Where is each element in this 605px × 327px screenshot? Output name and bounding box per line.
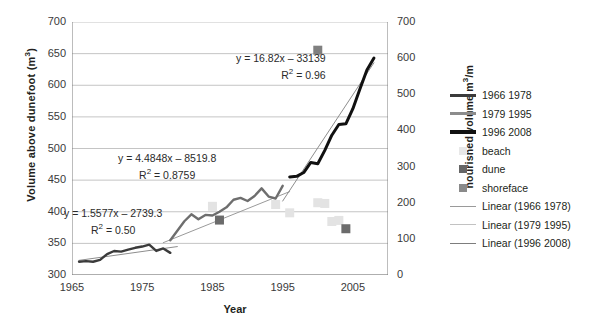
annotation-equation: y = 1.5577x – 2739.3 xyxy=(64,207,162,220)
y-axis-right-tick-label: 200 xyxy=(397,196,431,208)
marker-beach xyxy=(320,199,329,208)
annotation-equation: y = 4.4848x – 8519.8 xyxy=(118,152,216,165)
x-axis-tick-label: 1975 xyxy=(120,281,164,293)
y-axis-left-tick-label: 550 xyxy=(32,110,66,122)
plot-area xyxy=(72,22,388,275)
marker-beach xyxy=(208,202,217,211)
y-axis-left-tick-label: 600 xyxy=(32,78,66,90)
x-axis-tick-label: 1965 xyxy=(50,281,94,293)
y-axis-right-tick-label: 600 xyxy=(397,51,431,63)
legend-line-swatch xyxy=(450,243,476,244)
chart-figure: Volume above dunefoot (m3) nourished vol… xyxy=(0,0,605,327)
trendline-linear-1979-1995- xyxy=(163,192,289,243)
legend-item[interactable]: beach xyxy=(448,142,598,161)
legend-item[interactable]: shoreface xyxy=(448,179,598,198)
legend-key-square xyxy=(448,184,478,192)
legend-item-label: beach xyxy=(478,145,511,157)
legend-item-label: 1966 1978 xyxy=(478,89,532,101)
annotation-r2: R2 = 0.96 xyxy=(236,65,326,82)
y-axis-left-tick-label: 400 xyxy=(32,205,66,217)
legend-square-swatch xyxy=(459,147,467,155)
legend-item-label: Linear (1979 1995) xyxy=(478,219,571,231)
marker-beach xyxy=(271,200,280,209)
legend-key-line xyxy=(448,112,478,115)
y-axis-right-title-tail: /m xyxy=(463,65,475,78)
legend-key-line xyxy=(448,243,478,244)
legend-item[interactable]: 1996 2008 xyxy=(448,123,598,142)
legend-item[interactable]: Linear (1966 1978) xyxy=(448,197,598,216)
legend-key-line xyxy=(448,206,478,207)
legend-item[interactable]: dune xyxy=(448,160,598,179)
legend-item-label: dune xyxy=(478,163,505,175)
legend-item-label: shoreface xyxy=(478,182,528,194)
annotation-r2: R2 = 0.50 xyxy=(64,220,162,237)
legend-item[interactable]: 1979 1995 xyxy=(448,105,598,124)
marker-dune xyxy=(215,216,224,225)
legend-item[interactable]: 1966 1978 xyxy=(448,86,598,105)
annotation-eq-1996-2008: y = 16.82x – 33139 R2 = 0.96 xyxy=(236,52,326,82)
legend-item[interactable]: Linear (1996 2008) xyxy=(448,234,598,253)
series-1966-1978 xyxy=(79,245,170,262)
y-axis-right-tick-label: 0 xyxy=(397,268,431,280)
series-1979-1995 xyxy=(170,186,282,240)
y-axis-right-tick-label: 500 xyxy=(397,87,431,99)
legend-key-square xyxy=(448,165,478,173)
y-axis-left-title: Volume above dunefoot (m3) xyxy=(23,35,37,215)
x-axis-title: Year xyxy=(55,303,415,315)
legend-line-swatch xyxy=(450,112,476,115)
chart-legend: 1966 19781979 19951996 2008beachduneshor… xyxy=(448,86,598,253)
legend-square-swatch xyxy=(459,184,467,192)
y-axis-left-tick-label: 650 xyxy=(32,47,66,59)
marker-beach xyxy=(285,208,294,217)
legend-line-swatch xyxy=(450,130,476,134)
y-axis-right-tick-label: 100 xyxy=(397,232,431,244)
legend-item-label: 1979 1995 xyxy=(478,108,532,120)
y-axis-left-tick-label: 700 xyxy=(32,15,66,27)
annotation-eq-1979-1995: y = 4.4848x – 8519.8 R2 = 0.8759 xyxy=(118,152,216,182)
legend-line-swatch xyxy=(450,224,476,225)
legend-item-label: 1996 2008 xyxy=(478,126,532,138)
y-axis-left-tick-label: 350 xyxy=(32,236,66,248)
marker-dune xyxy=(341,224,350,233)
legend-key-line xyxy=(448,94,478,97)
y-axis-right-title-sup: 3 xyxy=(461,78,470,83)
x-axis-tick-label: 1995 xyxy=(261,281,305,293)
legend-square-swatch xyxy=(459,165,467,173)
y-axis-right-tick-label: 700 xyxy=(397,15,431,27)
legend-line-swatch xyxy=(450,94,476,97)
y-axis-right-tick-label: 300 xyxy=(397,160,431,172)
annotation-r2: R2 = 0.8759 xyxy=(118,165,216,182)
legend-item-label: Linear (1966 1978) xyxy=(478,200,571,212)
x-axis-tick-label: 2005 xyxy=(331,281,375,293)
y-axis-left-tick-label: 450 xyxy=(32,173,66,185)
legend-key-line xyxy=(448,224,478,225)
legend-item[interactable]: Linear (1979 1995) xyxy=(448,216,598,235)
chart-svg xyxy=(72,22,388,275)
legend-line-swatch xyxy=(450,206,476,207)
y-axis-left-tick-label: 500 xyxy=(32,142,66,154)
annotation-eq-1966-1978: y = 1.5577x – 2739.3 R2 = 0.50 xyxy=(64,207,162,237)
legend-item-label: Linear (1996 2008) xyxy=(478,237,571,249)
legend-key-line xyxy=(448,130,478,134)
y-axis-left-title-sup: 3 xyxy=(23,52,32,57)
y-axis-left-tick-label: 300 xyxy=(32,268,66,280)
annotation-equation: y = 16.82x – 33139 xyxy=(236,52,326,65)
legend-key-square xyxy=(448,147,478,155)
y-axis-right-tick-label: 400 xyxy=(397,123,431,135)
x-axis-tick-label: 1985 xyxy=(190,281,234,293)
marker-beach xyxy=(334,216,343,225)
